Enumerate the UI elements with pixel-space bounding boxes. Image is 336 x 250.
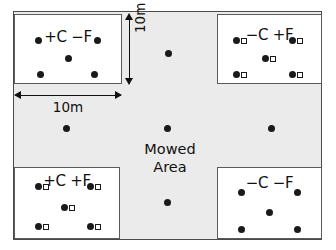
field-sampling-point <box>165 50 172 57</box>
fertilizer-quadrat-marker <box>43 224 49 230</box>
horizontal-dimension-arrow <box>15 95 121 96</box>
mowed-area-label-line2: Area <box>125 159 215 177</box>
treatment-plot-bottom-right: −C −F <box>217 167 322 239</box>
vertical-dimension-arrow <box>129 14 130 84</box>
field-sampling-point <box>63 125 70 132</box>
plot-sampling-point <box>37 71 44 78</box>
treatment-plot-label-top-left: +C −F <box>15 28 121 46</box>
treatment-plot-top-right: −C +F <box>217 14 322 84</box>
plot-sampling-point <box>94 37 101 44</box>
field-sampling-point <box>164 199 171 206</box>
plot-sampling-point <box>289 37 296 44</box>
plot-sampling-point <box>65 55 72 62</box>
fertilizer-quadrat-marker <box>95 224 101 230</box>
field-sampling-point <box>268 125 275 132</box>
fertilizer-quadrat-marker <box>297 72 303 78</box>
plot-sampling-point <box>238 189 245 196</box>
fertilizer-quadrat-marker <box>43 184 49 190</box>
mowed-field-plot-diagram: +C −F−C +F+C +F−C −F 10m 10m Mowed Area <box>0 0 336 250</box>
plot-sampling-point <box>35 223 42 230</box>
field-sampling-point <box>164 125 171 132</box>
plot-sampling-point <box>266 209 273 216</box>
plot-sampling-point <box>87 183 94 190</box>
treatment-plot-bottom-left: +C +F <box>14 167 120 239</box>
plot-sampling-point <box>233 37 240 44</box>
plot-sampling-point <box>289 71 296 78</box>
vertical-dimension-label: 10m <box>132 3 148 33</box>
plot-sampling-point <box>294 226 301 233</box>
plot-sampling-point <box>238 226 245 233</box>
treatment-plot-top-left: +C −F <box>14 14 122 84</box>
plot-sampling-point <box>35 37 42 44</box>
fertilizer-quadrat-marker <box>69 205 75 211</box>
plot-sampling-point <box>262 55 269 62</box>
plot-sampling-point <box>61 204 68 211</box>
treatment-plot-label-bottom-right: −C −F <box>218 174 321 192</box>
fertilizer-quadrat-marker <box>95 184 101 190</box>
plot-sampling-point <box>35 183 42 190</box>
horizontal-dimension-label: 10m <box>15 99 121 115</box>
fertilizer-quadrat-marker <box>270 56 276 62</box>
treatment-plot-label-bottom-left: +C +F <box>15 172 119 190</box>
plot-sampling-point <box>294 189 301 196</box>
plot-sampling-point <box>87 223 94 230</box>
plot-sampling-point <box>233 71 240 78</box>
fertilizer-quadrat-marker <box>241 72 247 78</box>
mowed-area-label: Mowed Area <box>125 141 215 176</box>
fertilizer-quadrat-marker <box>297 38 303 44</box>
plot-sampling-point <box>91 71 98 78</box>
mowed-area-label-line1: Mowed <box>125 141 215 159</box>
fertilizer-quadrat-marker <box>241 38 247 44</box>
